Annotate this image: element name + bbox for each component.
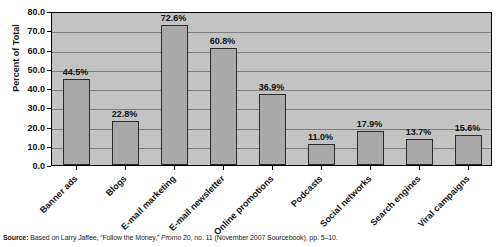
y-axis-tick-label: 60.0 [8, 46, 45, 56]
y-axis-tick-labels: 0.010.020.030.040.050.060.070.080.0 [8, 12, 45, 166]
y-axis-tick-mark [47, 89, 51, 90]
x-axis-tick-mark [76, 166, 77, 170]
bar [308, 144, 335, 165]
bar [210, 48, 237, 165]
y-axis-tick-label: 70.0 [8, 26, 45, 36]
y-axis-tick-mark [47, 31, 51, 32]
y-axis-tick-label: 20.0 [8, 123, 45, 133]
x-axis-tick-mark [223, 166, 224, 170]
x-axis-tick-mark [125, 166, 126, 170]
y-axis-tick-mark [47, 12, 51, 13]
bar [455, 135, 482, 165]
bar [259, 94, 286, 165]
gridline [52, 52, 491, 53]
bar [63, 79, 90, 165]
x-axis-tick-mark [419, 166, 420, 170]
x-axis-tick-mark [174, 166, 175, 170]
y-axis-tick-mark [47, 70, 51, 71]
bar-value-label: 11.0% [308, 132, 333, 142]
x-axis-tick-mark [272, 166, 273, 170]
bar [406, 139, 433, 165]
bar-value-label: 44.5% [63, 67, 89, 77]
y-axis-tick-label: 40.0 [8, 84, 45, 94]
bar-value-label: 17.9% [357, 119, 383, 129]
bar [161, 25, 188, 165]
y-axis-tick-label: 10.0 [8, 142, 45, 152]
x-axis-tick-mark [321, 166, 322, 170]
y-axis-tick-mark [47, 108, 51, 109]
bar-chart-figure: Percent of Total 0.010.020.030.040.050.0… [0, 0, 504, 247]
x-axis-tick-mark [468, 166, 469, 170]
x-axis-tick-mark [370, 166, 371, 170]
gridline [52, 32, 491, 33]
bar-value-label: 36.9% [259, 82, 285, 92]
y-axis-tick-label: 30.0 [8, 103, 45, 113]
y-axis-tick-mark [47, 147, 51, 148]
bar [112, 121, 139, 165]
y-axis-tick-label: 0.0 [8, 161, 45, 171]
bar-value-label: 13.7% [406, 127, 432, 137]
bar-value-label: 15.6% [455, 123, 481, 133]
bar-value-label: 22.8% [112, 109, 138, 119]
y-axis-tick-mark [47, 166, 51, 167]
bar-value-label: 60.8% [210, 36, 236, 46]
y-axis-tick-mark [47, 51, 51, 52]
y-axis-tick-label: 80.0 [8, 7, 45, 17]
bar-value-label: 72.6% [161, 13, 187, 23]
gridline [52, 71, 491, 72]
source-text-before: Based on Larry Jaffee, “Follow the Money… [28, 234, 161, 241]
bar [357, 131, 384, 165]
y-axis-tick-mark [47, 128, 51, 129]
y-axis-tick-label: 50.0 [8, 65, 45, 75]
